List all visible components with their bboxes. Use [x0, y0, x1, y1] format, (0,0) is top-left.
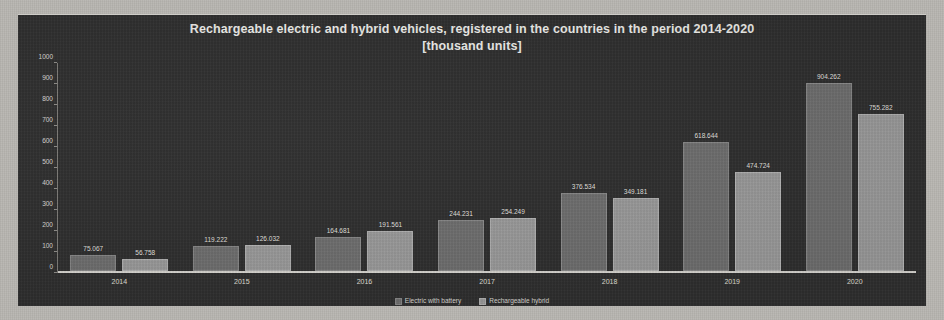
bar-group: 119.222126.032 [181, 63, 304, 271]
bar-value-label: 904.262 [817, 73, 841, 81]
bar-column: 191.561 [367, 63, 413, 271]
y-axis-tick-label: 700 [23, 116, 53, 123]
y-axis-tick-mark [54, 209, 57, 210]
x-axis-tick-label: 2017 [426, 277, 549, 286]
bar[interactable] [561, 193, 607, 271]
y-axis-tick-mark [54, 62, 57, 63]
y-axis-tick-label: 300 [23, 200, 53, 207]
bar-group: 618.644474.724 [671, 63, 794, 271]
bar-column: 755.282 [858, 63, 904, 271]
y-axis-tick-mark [54, 251, 57, 252]
y-axis-tick-label: 100 [23, 242, 53, 249]
legend-color-swatch [479, 298, 486, 305]
chart-legend: Electric with batteryRechargeable hybrid [18, 297, 926, 305]
y-axis-tick-label: 800 [23, 95, 53, 102]
bar[interactable] [315, 237, 361, 271]
bar[interactable] [70, 255, 116, 271]
chart-subtitle: [thousand units] [18, 38, 926, 55]
x-axis-tick-label: 2016 [303, 277, 426, 286]
bar-column: 244.231 [438, 63, 484, 271]
bar-value-label: 474.724 [746, 162, 770, 170]
bar-value-label: 376.534 [572, 183, 596, 191]
bar-column: 56.758 [122, 63, 168, 271]
chart-panel: Rechargeable electric and hybrid vehicle… [18, 14, 926, 306]
x-axis-tick-label: 2014 [58, 277, 181, 286]
bar-group: 244.231254.249 [426, 63, 549, 271]
x-axis-tick-label: 2015 [181, 277, 304, 286]
x-axis-category-labels: 2014201520162017201820192020 [58, 277, 916, 286]
legend-label: Rechargeable hybrid [489, 297, 549, 305]
bar-value-label: 618.644 [694, 132, 718, 140]
bar[interactable] [735, 172, 781, 271]
bar[interactable] [683, 142, 729, 271]
bar-column: 75.067 [70, 63, 116, 271]
bar-column: 119.222 [193, 63, 239, 271]
legend-label: Electric with battery [405, 297, 461, 305]
chart-title-line-1: Rechargeable electric and hybrid vehicle… [190, 22, 754, 36]
bar-value-label: 126.032 [256, 235, 280, 243]
bar[interactable] [245, 245, 291, 271]
bar-value-label: 191.561 [379, 221, 403, 229]
y-axis-tick-mark [54, 188, 57, 189]
bar[interactable] [367, 231, 413, 271]
bar-group: 904.262755.282 [793, 63, 916, 271]
bar[interactable] [613, 198, 659, 271]
y-axis-tick-mark [54, 167, 57, 168]
y-axis-tick-mark [54, 104, 57, 105]
bar[interactable] [490, 218, 536, 271]
bar[interactable] [122, 259, 168, 271]
y-axis-tick-label: 400 [23, 179, 53, 186]
bar-column: 126.032 [245, 63, 291, 271]
bar-group: 75.06756.758 [58, 63, 181, 271]
bar-group: 164.681191.561 [303, 63, 426, 271]
bar-value-label: 119.222 [204, 236, 227, 244]
y-axis-tick-label: 0 [23, 263, 53, 270]
chart-title: Rechargeable electric and hybrid vehicle… [18, 21, 926, 55]
bar-value-label: 254.249 [501, 208, 525, 216]
x-axis-tick-label: 2018 [548, 277, 671, 286]
y-axis-tick-mark [54, 146, 57, 147]
y-axis-tick-mark [54, 125, 57, 126]
bar[interactable] [438, 220, 484, 271]
x-axis-line [58, 271, 916, 273]
legend-color-swatch [395, 298, 402, 305]
bar-value-label: 75.067 [83, 245, 103, 253]
bar[interactable] [193, 246, 239, 271]
bar-value-label: 755.282 [869, 104, 893, 112]
y-axis-tick-mark [54, 230, 57, 231]
plot-area: 10009008007006005004003002001000 75.0675… [58, 63, 916, 273]
bar-column: 376.534 [561, 63, 607, 271]
bar-column: 349.181 [613, 63, 659, 271]
bar[interactable] [806, 83, 852, 271]
y-axis-tick-label: 200 [23, 221, 53, 228]
bar-column: 904.262 [806, 63, 852, 271]
x-axis-tick-label: 2020 [793, 277, 916, 286]
x-axis-tick-label: 2019 [671, 277, 794, 286]
bar-column: 164.681 [315, 63, 361, 271]
bar-value-label: 56.758 [135, 249, 155, 257]
bar-value-label: 244.231 [449, 210, 473, 218]
bar-value-label: 349.181 [624, 188, 648, 196]
y-axis-tick-label: 500 [23, 158, 53, 165]
screenshot-page: Rechargeable electric and hybrid vehicle… [0, 0, 944, 320]
bar-group: 376.534349.181 [548, 63, 671, 271]
bar-column: 618.644 [683, 63, 729, 271]
bar-column: 474.724 [735, 63, 781, 271]
y-axis-tick-label: 900 [23, 74, 53, 81]
y-axis-tick-mark [54, 272, 57, 273]
y-axis-tick-mark [54, 83, 57, 84]
legend-item[interactable]: Rechargeable hybrid [479, 297, 549, 305]
bar[interactable] [858, 114, 904, 271]
bar-groups: 75.06756.758119.222126.032164.681191.561… [58, 63, 916, 271]
y-axis-tick-label: 600 [23, 137, 53, 144]
bar-value-label: 164.681 [327, 227, 351, 235]
legend-item[interactable]: Electric with battery [395, 297, 461, 305]
bar-column: 254.249 [490, 63, 536, 271]
